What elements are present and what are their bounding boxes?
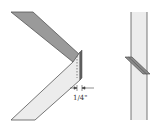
dark-board	[11, 12, 80, 62]
dimension-label: 1/4"	[73, 94, 88, 102]
board-end-strip	[80, 50, 82, 80]
light-board	[11, 52, 80, 120]
miter-joint-diagram: 1/4"	[0, 0, 160, 125]
